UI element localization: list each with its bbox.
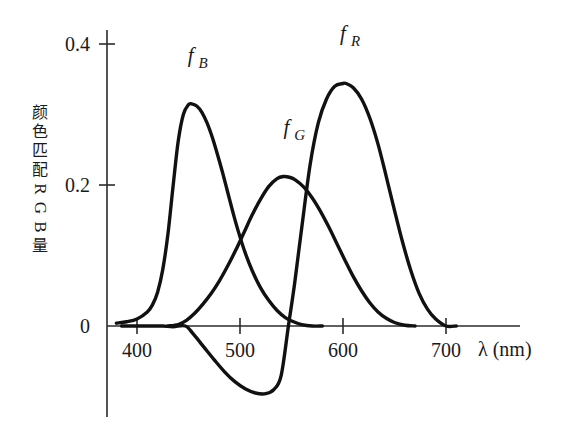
y-axis-title-char-5: G xyxy=(31,202,50,214)
chart-container: 400500600700 00.20.4 fBfGfR λ (nm) 颜色匹配R… xyxy=(0,0,587,441)
annotation-subscript: B xyxy=(199,55,208,71)
y-axis-title-char-1: 色 xyxy=(32,122,48,141)
y-axis-title-char-7: 量 xyxy=(32,236,48,255)
y-axis-title-char-2: 匹 xyxy=(32,141,48,160)
color-matching-rgb-chart: 400500600700 00.20.4 fBfGfR λ (nm) 颜色匹配R… xyxy=(0,0,587,441)
x-tick-label-700: 700 xyxy=(431,339,461,361)
y-axis-title-char-0: 颜 xyxy=(32,103,48,122)
chart-background xyxy=(0,0,587,441)
x-axis-title-text: λ (nm) xyxy=(478,338,532,361)
y-axis-title-char-3: 配 xyxy=(32,160,48,179)
x-axis-title: λ (nm) xyxy=(478,338,532,361)
annotation-subscript: G xyxy=(294,127,305,143)
x-tick-label-600: 600 xyxy=(328,339,358,361)
annotation-subscript: R xyxy=(350,33,360,49)
x-tick-label-500: 500 xyxy=(225,339,255,361)
y-axis-title-char-4: R xyxy=(31,183,50,195)
x-tick-label-400: 400 xyxy=(122,339,152,361)
y-tick-label-0.2: 0.2 xyxy=(65,174,90,196)
y-tick-label-0: 0 xyxy=(80,315,90,337)
y-axis-title-char-6: B xyxy=(31,221,50,232)
y-tick-label-0.4: 0.4 xyxy=(65,33,90,55)
